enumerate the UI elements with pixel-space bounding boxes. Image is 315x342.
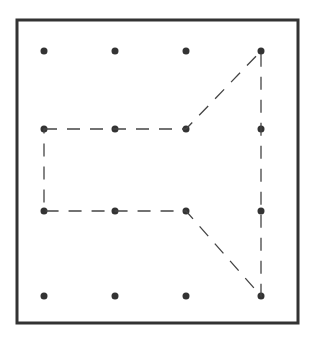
grid-dot bbox=[41, 48, 48, 55]
geoboard-diagram bbox=[0, 0, 315, 342]
grid-dot bbox=[183, 48, 190, 55]
grid-dot bbox=[112, 293, 119, 300]
board-frame bbox=[17, 20, 298, 323]
grid-dot bbox=[41, 293, 48, 300]
dashed-polygon bbox=[44, 51, 261, 296]
grid-dot bbox=[258, 208, 265, 215]
grid-dot bbox=[258, 48, 265, 55]
grid-dot bbox=[112, 48, 119, 55]
grid-dot bbox=[183, 293, 190, 300]
